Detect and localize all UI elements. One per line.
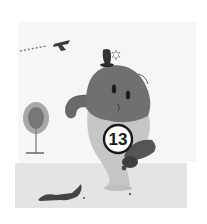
right-eye (126, 91, 130, 100)
ground (15, 163, 187, 208)
jersey-number-badge: 13 (104, 125, 132, 153)
left-eye (112, 85, 116, 94)
jersey-number: 13 (109, 130, 128, 149)
illustration: 13 (0, 0, 207, 224)
